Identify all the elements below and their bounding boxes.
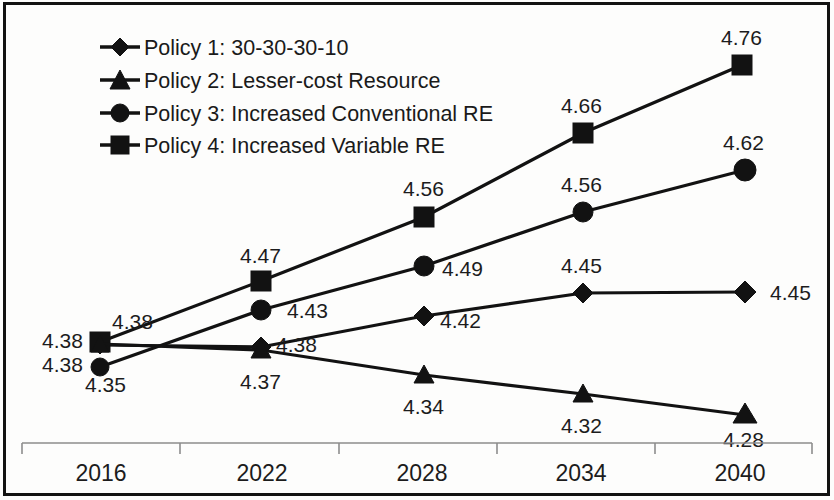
x-tick-label-2028: 2028 <box>396 460 447 486</box>
data-label: 4.37 <box>240 370 281 393</box>
x-axis: 2016 2022 2028 2034 2040 <box>22 443 812 486</box>
series-policy-3: 4.35 4.43 4.49 4.56 4.62 <box>85 131 764 396</box>
legend-item-policy-4[interactable]: Policy 4: Increased Variable RE <box>100 134 445 158</box>
data-label: 4.56 <box>403 177 444 200</box>
x-tick-label-2022: 2022 <box>236 460 287 486</box>
data-label: 4.45 <box>561 254 602 277</box>
data-point-marker[interactable] <box>414 256 434 276</box>
diamond-icon <box>111 38 129 56</box>
circle-icon <box>111 104 129 122</box>
data-point-marker[interactable] <box>251 300 271 320</box>
x-tick-label-2016: 2016 <box>75 460 126 486</box>
data-point-marker[interactable] <box>734 159 756 181</box>
data-label: 4.38 <box>42 353 83 376</box>
data-point-marker[interactable] <box>573 202 593 222</box>
data-label: 4.66 <box>561 94 602 117</box>
data-label: 4.42 <box>440 309 481 332</box>
data-point-marker[interactable] <box>251 271 271 291</box>
data-label: 4.56 <box>561 173 602 196</box>
x-tick-label-2040: 2040 <box>714 460 765 486</box>
data-label: 4.38 <box>112 310 153 333</box>
data-label: 4.38 <box>42 329 83 352</box>
legend-item-policy-3[interactable]: Policy 3: Increased Conventional RE <box>100 102 493 126</box>
chart-legend: Policy 1: 30-30-30-10 Policy 2: Lesser-c… <box>100 36 493 158</box>
legend-label-policy-4: Policy 4: Increased Variable RE <box>144 134 445 158</box>
square-icon <box>111 136 129 154</box>
legend-label-policy-3: Policy 3: Increased Conventional RE <box>144 102 493 126</box>
data-label: 4.34 <box>403 395 444 418</box>
legend-label-policy-1: Policy 1: 30-30-30-10 <box>144 36 348 60</box>
line-chart: Policy 1: 30-30-30-10 Policy 2: Lesser-c… <box>0 0 834 500</box>
data-label: 4.32 <box>561 414 602 437</box>
data-point-marker[interactable] <box>732 55 752 75</box>
data-point-marker[interactable] <box>414 306 434 326</box>
series-policy-2: 4.38 4.37 4.34 4.32 4.28 <box>42 335 764 451</box>
data-label: 4.62 <box>723 131 764 154</box>
legend-item-policy-2[interactable]: Policy 2: Lesser-cost Resource <box>100 69 440 93</box>
data-label: 4.47 <box>240 244 281 267</box>
data-label: 4.45 <box>770 281 811 304</box>
data-point-marker[interactable] <box>573 283 593 303</box>
chart-figure: Policy 1: 30-30-30-10 Policy 2: Lesser-c… <box>0 0 834 500</box>
data-label: 4.76 <box>721 26 762 49</box>
data-point-marker[interactable] <box>414 207 434 227</box>
legend-label-policy-2: Policy 2: Lesser-cost Resource <box>144 69 440 93</box>
legend-item-policy-1[interactable]: Policy 1: 30-30-30-10 <box>100 36 348 60</box>
data-point-marker[interactable] <box>573 123 593 143</box>
data-label: 4.28 <box>723 428 764 451</box>
data-label: 4.43 <box>287 299 328 322</box>
x-tick-label-2034: 2034 <box>555 460 606 486</box>
data-point-marker[interactable] <box>734 281 756 303</box>
data-label: 4.49 <box>442 257 483 280</box>
data-label: 4.35 <box>85 373 126 396</box>
